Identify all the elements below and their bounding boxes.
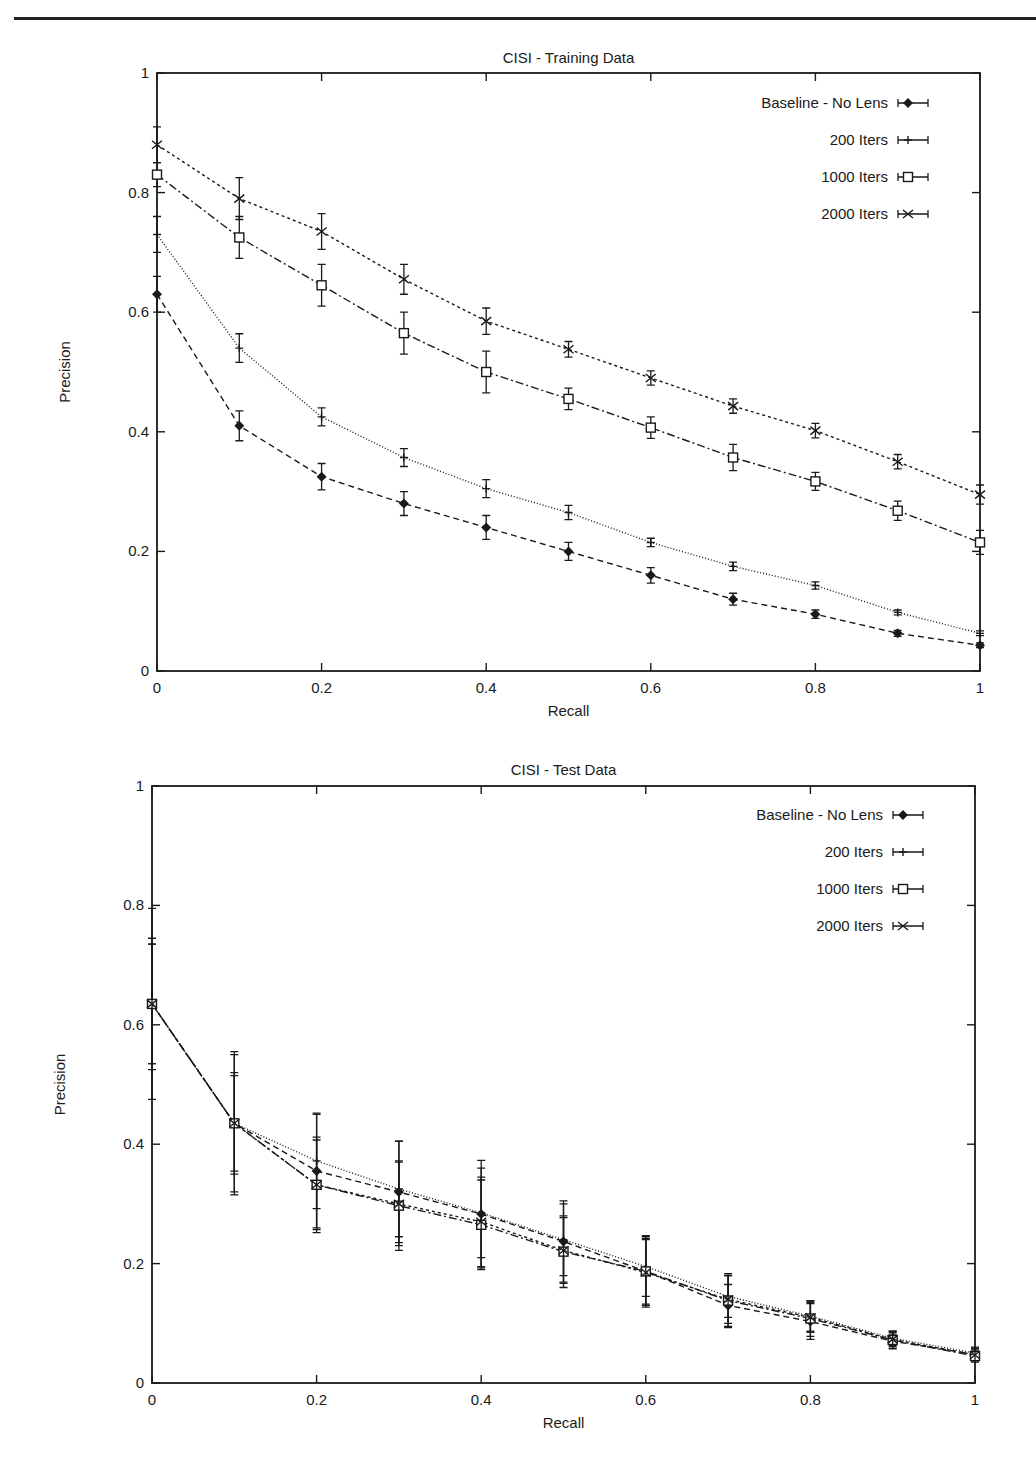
chart-test-data: CISI - Test Data00.20.40.60.8100.20.40.6… xyxy=(51,761,980,1431)
legend-label: 1000 Iters xyxy=(821,168,888,185)
legend-swatch xyxy=(898,210,928,218)
y-tick-label: 0.2 xyxy=(123,1255,144,1272)
x-tick-label: 0 xyxy=(148,1391,156,1408)
diamond-marker-icon xyxy=(729,595,737,603)
chart-title: CISI - Test Data xyxy=(511,761,617,778)
square-marker-icon xyxy=(564,394,573,403)
square-marker-icon xyxy=(729,453,738,462)
square-marker-icon xyxy=(646,423,655,432)
series-line xyxy=(157,175,980,543)
y-tick-label: 0 xyxy=(136,1374,144,1391)
x-tick-label: 0.6 xyxy=(635,1391,656,1408)
legend-item: Baseline - No Lens xyxy=(756,806,923,823)
diamond-marker-icon xyxy=(400,500,408,508)
charts-canvas: CISI - Training Data00.20.40.60.8100.20.… xyxy=(0,0,1036,1464)
legend-item: 200 Iters xyxy=(830,131,928,148)
y-tick-label: 0.4 xyxy=(123,1135,144,1152)
y-tick-label: 0.6 xyxy=(123,1016,144,1033)
plus-marker-icon xyxy=(899,848,907,856)
x-axis-label: Recall xyxy=(548,702,590,719)
legend-label: Baseline - No Lens xyxy=(756,806,883,823)
x-tick-label: 0.4 xyxy=(476,679,497,696)
series-line xyxy=(157,234,980,633)
square-marker-icon xyxy=(482,368,491,377)
square-marker-icon xyxy=(893,506,902,515)
legend-label: 1000 Iters xyxy=(816,880,883,897)
diamond-marker-icon xyxy=(318,473,326,481)
series-baseline-no-lens xyxy=(148,908,979,1360)
legend-item: 1000 Iters xyxy=(816,880,923,897)
y-tick-label: 0.8 xyxy=(128,184,149,201)
chart-title: CISI - Training Data xyxy=(503,49,635,66)
series-baseline-no-lens xyxy=(153,276,984,649)
series-200-iters xyxy=(153,217,984,638)
x-tick-label: 1 xyxy=(971,1391,979,1408)
legend-swatch xyxy=(893,811,923,819)
y-tick-label: 0.8 xyxy=(123,896,144,913)
diamond-marker-icon xyxy=(647,571,655,579)
legend-label: 2000 Iters xyxy=(821,205,888,222)
legend-swatch xyxy=(893,848,923,856)
legend-item: 200 Iters xyxy=(825,843,923,860)
series-line xyxy=(152,1004,975,1354)
plus-marker-icon xyxy=(647,538,655,546)
x-tick-label: 0.8 xyxy=(800,1391,821,1408)
square-marker-icon xyxy=(317,281,326,290)
square-marker-icon xyxy=(899,885,908,894)
series-line xyxy=(152,1004,975,1356)
legend-label: 2000 Iters xyxy=(816,917,883,934)
y-tick-label: 0.4 xyxy=(128,423,149,440)
square-marker-icon xyxy=(811,477,820,486)
plus-marker-icon xyxy=(400,454,408,462)
x-tick-label: 0.4 xyxy=(471,1391,492,1408)
legend-swatch xyxy=(898,99,928,107)
x-tick-label: 0.2 xyxy=(306,1391,327,1408)
plus-marker-icon xyxy=(904,136,912,144)
legend-label: 200 Iters xyxy=(830,131,888,148)
diamond-marker-icon xyxy=(811,610,819,618)
plot-frame xyxy=(157,73,980,671)
x-tick-label: 0.6 xyxy=(640,679,661,696)
x-tick-label: 1 xyxy=(976,679,984,696)
series-2000-iters xyxy=(147,944,980,1361)
x-tick-label: 0.2 xyxy=(311,679,332,696)
series-line xyxy=(152,1004,975,1355)
diamond-marker-icon xyxy=(899,811,907,819)
plus-marker-icon xyxy=(729,562,737,570)
legend-label: Baseline - No Lens xyxy=(761,94,888,111)
square-marker-icon xyxy=(904,173,913,182)
plus-marker-icon xyxy=(565,509,573,517)
square-marker-icon xyxy=(399,329,408,338)
y-tick-label: 0.6 xyxy=(128,303,149,320)
legend-item: 2000 Iters xyxy=(816,917,923,934)
legend-item: 1000 Iters xyxy=(821,168,928,185)
x-axis-label: Recall xyxy=(543,1414,585,1431)
series-line xyxy=(152,1004,975,1353)
square-marker-icon xyxy=(976,538,985,547)
x-tick-label: 0.8 xyxy=(805,679,826,696)
diamond-marker-icon xyxy=(482,523,490,531)
y-axis-label: Precision xyxy=(51,1054,68,1116)
plus-marker-icon xyxy=(811,581,819,589)
y-tick-label: 1 xyxy=(141,64,149,81)
chart-training-data: CISI - Training Data00.20.40.60.8100.20.… xyxy=(56,49,985,719)
diamond-marker-icon xyxy=(235,422,243,430)
diamond-marker-icon xyxy=(904,99,912,107)
y-tick-label: 0.2 xyxy=(128,542,149,559)
series-1000-iters xyxy=(148,938,980,1362)
x-tick-label: 0 xyxy=(153,679,161,696)
legend-swatch xyxy=(898,136,928,144)
diamond-marker-icon xyxy=(153,290,161,298)
square-marker-icon xyxy=(235,233,244,242)
y-tick-label: 1 xyxy=(136,777,144,794)
plus-marker-icon xyxy=(482,485,490,493)
legend-item: Baseline - No Lens xyxy=(761,94,928,111)
y-tick-label: 0 xyxy=(141,662,149,679)
y-axis-label: Precision xyxy=(56,341,73,403)
diamond-marker-icon xyxy=(565,547,573,555)
series-line xyxy=(157,145,980,495)
legend-item: 2000 Iters xyxy=(821,205,928,222)
plot-frame xyxy=(152,786,975,1383)
legend-label: 200 Iters xyxy=(825,843,883,860)
legend-swatch xyxy=(893,922,923,930)
